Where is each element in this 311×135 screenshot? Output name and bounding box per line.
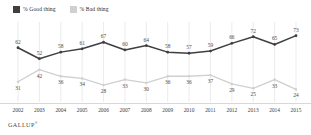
- data-label: 59: [208, 42, 213, 48]
- data-point: [230, 42, 233, 45]
- x-tick-label: 2014: [269, 107, 280, 114]
- data-point: [145, 82, 147, 84]
- data-label: 58: [58, 43, 63, 49]
- data-point: [17, 46, 20, 49]
- data-label: 42: [37, 73, 42, 79]
- data-point: [252, 87, 254, 89]
- data-label: 25: [251, 91, 256, 97]
- data-label: 61: [79, 40, 84, 46]
- x-tick-label: 2006: [98, 107, 109, 114]
- data-label: 62: [15, 39, 20, 45]
- legend-swatch-good-icon: [13, 6, 20, 13]
- data-label: 24: [293, 92, 298, 98]
- data-point: [124, 78, 126, 80]
- data-point: [209, 50, 212, 53]
- data-label: 58: [165, 43, 170, 49]
- plot-area: 6252586167606458575966726573314236342833…: [0, 22, 311, 102]
- data-label: 52: [37, 50, 42, 56]
- data-point: [102, 41, 105, 44]
- data-label: 36: [58, 79, 63, 85]
- data-label: 36: [165, 79, 170, 85]
- x-tick-label: 2008: [141, 107, 152, 114]
- data-point: [38, 57, 41, 60]
- x-tick-label: 2010: [184, 107, 195, 114]
- data-point: [188, 75, 190, 77]
- data-point: [273, 43, 276, 46]
- gallup-line-chart: % Good thing % Bad thing 625258616760645…: [0, 0, 311, 135]
- data-point: [295, 34, 298, 37]
- data-label: 60: [122, 41, 127, 47]
- x-tick-label: 2013: [248, 107, 259, 114]
- data-label: 28: [101, 88, 106, 94]
- data-point: [81, 77, 83, 79]
- data-point: [102, 84, 104, 86]
- data-label: 34: [79, 81, 84, 87]
- x-tick-label: 2011: [205, 107, 216, 114]
- data-point: [17, 81, 19, 83]
- legend-swatch-bad-icon: [70, 6, 77, 13]
- x-tick-label: 2007: [120, 107, 131, 114]
- data-point: [273, 78, 275, 80]
- data-point: [166, 75, 168, 77]
- data-point: [188, 52, 191, 55]
- x-tick-label: 2012: [226, 107, 237, 114]
- data-point: [59, 51, 62, 54]
- data-point: [60, 75, 62, 77]
- data-label: 36: [186, 79, 191, 85]
- data-point: [231, 83, 233, 85]
- x-tick-label: 2009: [162, 107, 173, 114]
- x-axis: 2002200320042005200620072008200920102011…: [0, 103, 311, 116]
- data-label: 31: [15, 85, 20, 91]
- gallup-attribution: GALLUP®: [8, 121, 38, 128]
- registered-trademark-icon: ®: [35, 121, 38, 125]
- data-label: 67: [101, 33, 106, 39]
- data-label: 65: [272, 35, 277, 41]
- data-point: [81, 47, 84, 50]
- data-point: [38, 68, 40, 70]
- x-tick-label: 2005: [77, 107, 88, 114]
- data-label: 29: [229, 87, 234, 93]
- data-label: 73: [293, 27, 298, 33]
- data-point: [209, 74, 211, 76]
- data-point: [295, 88, 297, 90]
- gridlines: [18, 22, 296, 102]
- data-label: 72: [251, 28, 256, 34]
- data-label: 33: [272, 83, 277, 89]
- gallup-brand-text: GALLUP: [8, 121, 35, 128]
- legend-item-bad-thing: % Bad thing: [70, 6, 109, 13]
- x-tick-label: 2015: [291, 107, 302, 114]
- plot-svg: [0, 22, 311, 102]
- data-point: [145, 44, 148, 47]
- data-label: 37: [208, 78, 213, 84]
- x-tick-label: 2004: [55, 107, 66, 114]
- data-label: 30: [144, 86, 149, 92]
- chart-legend: % Good thing % Bad thing: [13, 3, 109, 15]
- data-label: 64: [144, 37, 149, 43]
- legend-label-good-thing: % Good thing: [23, 6, 56, 13]
- data-label: 57: [186, 44, 191, 50]
- data-label: 33: [122, 83, 127, 89]
- data-point: [124, 49, 127, 52]
- data-label: 66: [229, 34, 234, 40]
- data-point: [166, 51, 169, 54]
- data-point: [252, 35, 255, 38]
- x-tick-label: 2003: [34, 107, 45, 114]
- legend-item-good-thing: % Good thing: [13, 6, 56, 13]
- x-tick-label: 2002: [13, 107, 24, 114]
- legend-label-bad-thing: % Bad thing: [80, 6, 109, 13]
